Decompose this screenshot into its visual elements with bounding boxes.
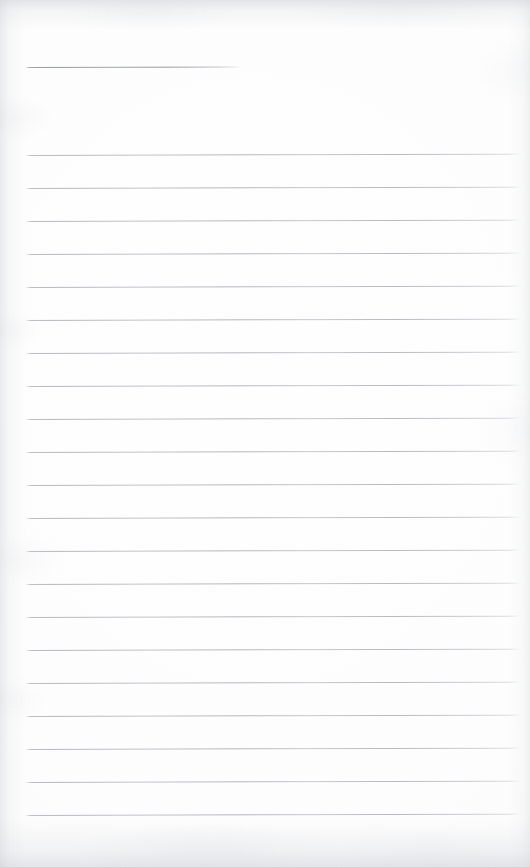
ruled-line [25,319,521,321]
ruled-line [25,682,521,684]
ruled-lines-layer [0,0,530,867]
ruled-line [25,484,521,486]
ruled-line [25,814,521,816]
ruled-line [25,517,521,519]
ruled-line [25,550,521,552]
ruled-line [25,154,521,156]
scanned-page [0,0,530,867]
ruled-line [25,748,521,750]
ruled-line [25,352,521,354]
ruled-line [25,220,521,222]
ruled-line [25,451,521,453]
ruled-line [25,187,521,189]
ruled-line [25,385,521,387]
ruled-line [25,649,521,651]
ruled-line [25,418,521,420]
ruled-line [25,253,521,255]
ruled-line [25,616,521,618]
ruled-line [25,583,521,585]
ruled-line [25,781,521,783]
ruled-line [25,715,521,717]
title-rule [25,66,241,68]
ruled-line [25,286,521,288]
